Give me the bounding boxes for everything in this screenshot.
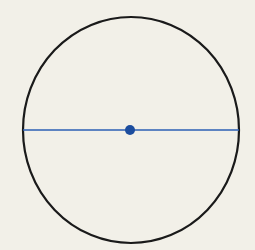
- center-point: [125, 125, 135, 135]
- circle-diagram: [0, 0, 255, 250]
- paper-background: [0, 0, 255, 250]
